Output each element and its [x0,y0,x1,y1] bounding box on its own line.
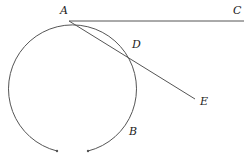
arc-endpoint-left [56,150,58,152]
circle-arc [8,25,136,151]
label-c: C [233,4,242,17]
label-b: B [128,125,137,138]
arc-endpoint-right [87,150,89,152]
geometry-diagram: A C D E B [0,0,248,160]
label-a: A [59,4,68,17]
label-e: E [199,95,208,108]
label-d: D [131,38,141,51]
secant-line-ae [69,21,195,99]
